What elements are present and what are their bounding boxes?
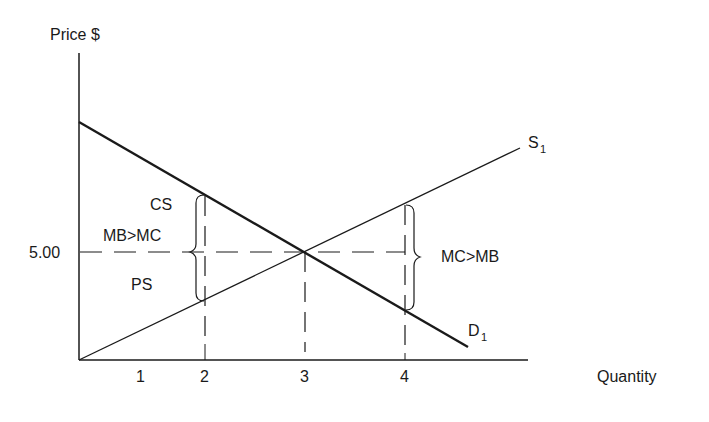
mc-gt-mb-label: MC>MB [441,248,499,265]
price-tick-label: 5.00 [29,244,60,261]
x-tick-label-2: 2 [200,368,209,385]
x-tick-label-1: 1 [136,368,145,385]
y-axis-label: Price $ [50,26,100,43]
producer-surplus-label: PS [131,276,152,293]
supply-demand-diagram: Price $ Quantity 5.00 1 2 3 4 S 1 D 1 CS… [0,0,709,422]
x-tick-label-4: 4 [400,368,409,385]
consumer-surplus-label: CS [150,196,172,213]
supply-label: S [528,134,539,151]
demand-subscript: 1 [481,331,487,343]
brace-right-icon [406,205,420,310]
mb-gt-mc-label: MB>MC [103,227,161,244]
supply-subscript: 1 [540,143,546,155]
brace-left-icon [190,195,204,301]
demand-label: D [468,322,480,339]
x-tick-label-3: 3 [300,368,309,385]
x-axis-label: Quantity [597,368,657,385]
